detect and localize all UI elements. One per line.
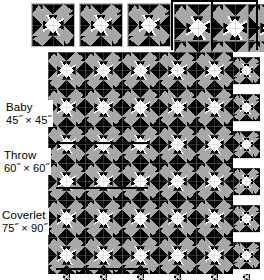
quilt-block (159, 126, 196, 163)
coverlet-top-cap (211, 0, 258, 2)
quilt-block (122, 89, 159, 126)
quilt-block (122, 52, 159, 89)
quilt-block (48, 200, 85, 237)
quilt-block (48, 126, 85, 163)
label-throw-name: Throw (4, 148, 49, 162)
block-sample-3 (127, 3, 171, 47)
quilt-block (196, 274, 233, 280)
quilt-block (48, 274, 85, 280)
quilt-block (196, 200, 233, 237)
quilt-block (196, 126, 233, 163)
quilt-block (233, 163, 260, 200)
quilt-block (233, 274, 260, 280)
quilt-block (159, 89, 196, 126)
quilt-block (85, 200, 122, 237)
quilt-block (233, 52, 260, 89)
label-coverlet-size: 75˝ × 90˝ (2, 222, 47, 235)
quilt-block (159, 274, 196, 280)
quilt-block (85, 163, 122, 200)
quilt-block (233, 89, 260, 126)
coverlet-width-rule (56, 268, 148, 270)
quilt-block (48, 52, 85, 89)
label-baby-name: Baby (6, 100, 51, 114)
label-throw-size: 60˝ × 60˝ (4, 162, 49, 175)
label-coverlet: Coverlet 75˝ × 90˝ (2, 208, 49, 235)
label-baby-size: 45˝ × 45˝ (6, 114, 51, 127)
quilt-block (122, 274, 159, 280)
coverlet-height-rule (256, 0, 258, 50)
quilt-block (159, 163, 196, 200)
quilt-block (233, 200, 260, 237)
label-coverlet-name: Coverlet (2, 208, 47, 222)
quilt-block (85, 274, 122, 280)
quilt-block (174, 4, 211, 41)
throw-width-rule (56, 187, 148, 189)
quilt-block (159, 200, 196, 237)
quilt-block (85, 126, 122, 163)
quilt-block (122, 126, 159, 163)
quilt-block (196, 237, 233, 274)
quilt-block (159, 52, 196, 89)
quilt-block (211, 4, 248, 41)
quilt-block (196, 52, 233, 89)
baby-width-rule (56, 142, 148, 144)
quilt-block (48, 89, 85, 126)
quilt-block (48, 163, 85, 200)
quilt-block (122, 200, 159, 237)
quilt-block-grid (48, 52, 260, 280)
quilt-size-diagram: Baby 45˝ × 45˝ Throw 60˝ × 60˝ Coverlet … (0, 0, 264, 280)
block-sample-2 (79, 3, 123, 47)
quilt-block (159, 237, 196, 274)
quilt-block (233, 237, 260, 274)
throw-top-cap (171, 0, 213, 2)
quilt-block (233, 126, 260, 163)
throw-height-rule (211, 0, 213, 50)
quilt-block (196, 89, 233, 126)
label-baby: Baby 45˝ × 45˝ (6, 100, 53, 127)
block-sample-1 (31, 3, 75, 47)
quilt-block (85, 89, 122, 126)
quilt-block (174, 41, 211, 52)
quilt-block (122, 163, 159, 200)
quilt-block (196, 163, 233, 200)
baby-height-rule (171, 0, 173, 50)
quilt-top-band (174, 4, 264, 52)
quilt-block (211, 41, 248, 52)
label-throw: Throw 60˝ × 60˝ (4, 148, 51, 175)
quilt-block (85, 52, 122, 89)
